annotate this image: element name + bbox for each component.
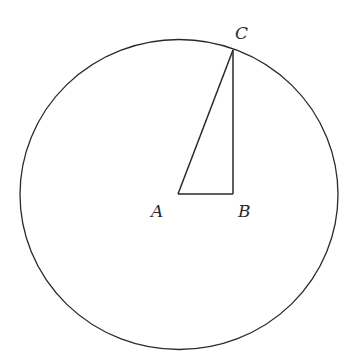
geometry-diagram: C A B — [0, 0, 356, 362]
segment-ac — [178, 50, 233, 194]
point-label-c: C — [235, 23, 248, 43]
point-label-a: A — [149, 201, 163, 221]
point-label-b: B — [237, 201, 251, 221]
right-triangle-abc — [178, 50, 233, 194]
